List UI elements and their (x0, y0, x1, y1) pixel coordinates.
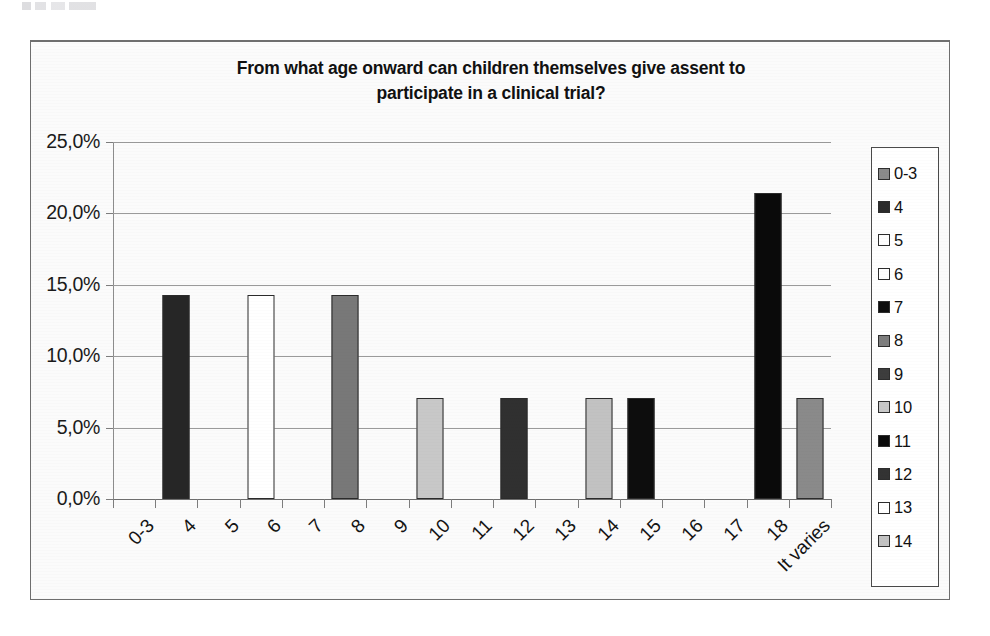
x-axis-label-4: 4 (178, 515, 201, 538)
legend-item-9[interactable]: 9 (878, 357, 938, 390)
y-axis-label: 25,0% (46, 130, 100, 153)
x-axis-label-17: 17 (720, 515, 750, 545)
bar-15[interactable] (627, 398, 654, 499)
x-axis-label-15: 15 (635, 515, 665, 545)
x-axis-label-text: 0-3 (124, 515, 159, 550)
legend-swatch-icon (878, 502, 890, 514)
x-axis-label-8: 8 (347, 515, 370, 538)
y-axis-tick (106, 499, 113, 500)
legend-swatch-icon (878, 368, 890, 380)
x-axis-label-text: 18 (762, 515, 792, 545)
legend-item-7[interactable]: 7 (878, 291, 938, 324)
x-axis-label-10: 10 (424, 515, 454, 545)
bar-8[interactable] (332, 295, 359, 499)
x-axis-tick (747, 499, 748, 508)
legend-item-11[interactable]: 11 (878, 424, 938, 457)
bar-slot (155, 142, 197, 499)
x-axis-tick (324, 499, 325, 508)
legend-label: 9 (894, 366, 903, 383)
x-axis-tick (535, 499, 536, 508)
x-axis-label-18: 18 (762, 515, 792, 545)
x-axis-tick (493, 499, 494, 508)
legend-swatch-icon (878, 301, 890, 313)
x-axis-label-text: 11 (467, 515, 496, 544)
x-axis-label-text: 17 (720, 515, 750, 545)
y-axis-tick (106, 285, 113, 286)
bar-slot (578, 142, 620, 499)
y-axis-line (113, 142, 114, 499)
legend-label: 5 (894, 232, 903, 249)
x-axis-tick (282, 499, 283, 508)
bar-14[interactable] (585, 398, 612, 499)
x-axis-label-text: 13 (551, 515, 581, 545)
chart-frame: From what age onward can children themse… (30, 40, 950, 600)
y-axis-label: 0,0% (57, 487, 100, 510)
bar-slot (789, 142, 831, 499)
legend-item-10[interactable]: 10 (878, 391, 938, 424)
y-axis-label: 20,0% (46, 201, 100, 224)
x-axis-label-14: 14 (593, 515, 623, 545)
chart-title-line-2: participate in a clinical trial? (111, 81, 871, 106)
x-axis-tick (240, 499, 241, 508)
gridline-0 (113, 499, 831, 500)
x-axis-tick (831, 499, 832, 508)
x-axis-tick (366, 499, 367, 508)
legend-item-0-3[interactable]: 0-3 (878, 157, 938, 190)
x-axis-label-12: 12 (509, 515, 539, 545)
y-axis-tick (106, 142, 113, 143)
bar-4[interactable] (163, 295, 190, 499)
x-axis-tick (197, 499, 198, 508)
x-axis-label-text: 8 (347, 515, 370, 538)
gridline-5 (113, 428, 831, 429)
plot-area: 25,0%20,0%15,0%10,0%5,0%0,0% 0-345678910… (113, 142, 831, 499)
gridline-20 (113, 213, 831, 214)
x-axis-tick (409, 499, 410, 508)
legend-item-8[interactable]: 8 (878, 324, 938, 357)
x-axis-label-text: 5 (220, 515, 243, 538)
bar-18[interactable] (754, 193, 781, 499)
chart-legend: 0-34567891011121314 (871, 147, 939, 587)
x-axis-label-text: 14 (593, 515, 623, 545)
legend-swatch-icon (878, 168, 890, 180)
scan-artifact (22, 2, 96, 10)
x-axis-tick (451, 499, 452, 508)
bar-10[interactable] (416, 398, 443, 499)
bar-slot (747, 142, 789, 499)
legend-item-6[interactable]: 6 (878, 257, 938, 290)
legend-label: 0-3 (894, 165, 917, 182)
x-axis-label-text: 10 (424, 515, 454, 545)
x-axis-label-text: 4 (178, 515, 201, 538)
legend-swatch-icon (878, 535, 890, 547)
y-axis-label: 10,0% (46, 344, 100, 367)
x-axis-label-16: 16 (678, 515, 708, 545)
legend-swatch-icon (878, 335, 890, 347)
bar-it-varies[interactable] (796, 398, 823, 499)
legend-item-13[interactable]: 13 (878, 491, 938, 524)
legend-item-12[interactable]: 12 (878, 458, 938, 491)
x-axis-tick (662, 499, 663, 508)
bar-6[interactable] (247, 295, 274, 499)
x-axis-label-7: 7 (305, 515, 328, 538)
bar-slot (324, 142, 366, 499)
legend-item-5[interactable]: 5 (878, 224, 938, 257)
x-axis-tick (113, 499, 114, 508)
legend-item-14[interactable]: 14 (878, 524, 938, 557)
gridline-10 (113, 356, 831, 357)
x-axis-label-text: 15 (635, 515, 665, 545)
x-axis-tick (578, 499, 579, 508)
chart-title: From what age onward can children themse… (111, 56, 871, 106)
y-axis-tick (106, 356, 113, 357)
bar-12[interactable] (501, 398, 528, 499)
legend-label: 6 (894, 266, 903, 283)
y-axis-tick (106, 213, 113, 214)
legend-label: 8 (894, 332, 903, 349)
legend-swatch-icon (878, 468, 890, 480)
gridline-25 (113, 142, 831, 143)
x-axis-label-0-3: 0-3 (124, 515, 159, 550)
x-axis-tick (789, 499, 790, 508)
legend-item-4[interactable]: 4 (878, 190, 938, 223)
legend-label: 13 (894, 499, 912, 516)
x-axis-label-text: 16 (678, 515, 708, 545)
bar-slot (620, 142, 662, 499)
x-axis-label-11: 11 (467, 515, 496, 544)
